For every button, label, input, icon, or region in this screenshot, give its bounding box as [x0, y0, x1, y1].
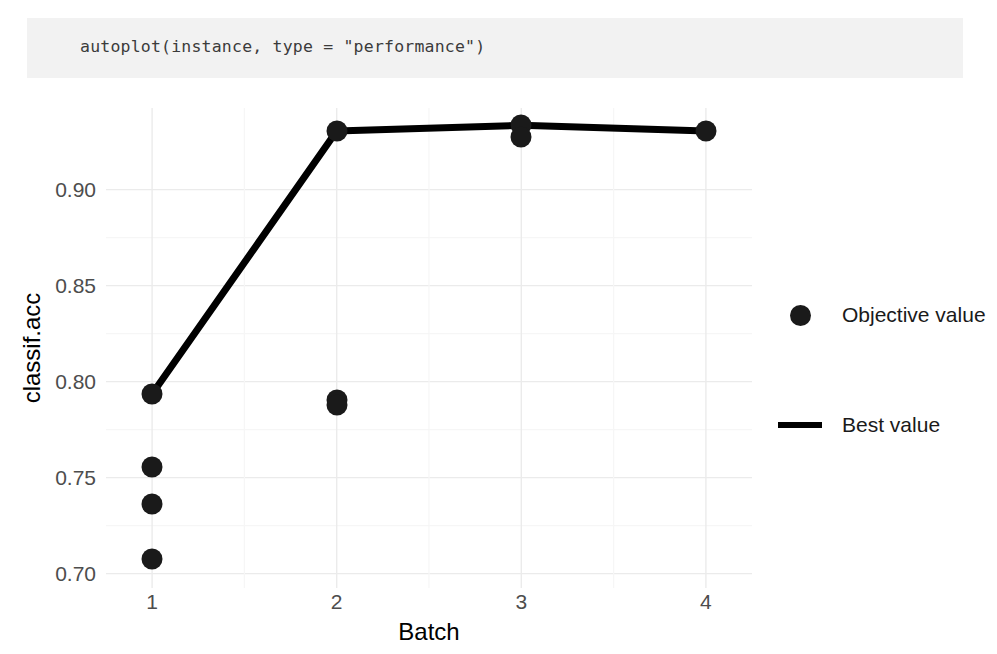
data-point	[695, 121, 716, 142]
x-axis-ticks: 1234	[106, 590, 752, 620]
y-tick-label: 0.80	[55, 370, 96, 394]
plot-panel	[106, 108, 752, 588]
data-point	[142, 384, 163, 405]
x-axis-title: Batch	[106, 618, 752, 646]
legend-label: Best value	[842, 413, 940, 437]
code-cell: autoplot(instance, type = "performance")	[27, 18, 963, 78]
legend-entry: Best value	[772, 408, 940, 442]
legend-dot-icon	[790, 305, 811, 326]
performance-plot: 0.900.850.800.750.70 1234 Batch classif.…	[0, 88, 997, 654]
x-tick-label: 2	[331, 590, 343, 614]
x-tick-label: 1	[146, 590, 158, 614]
data-point	[511, 126, 532, 147]
legend-line-icon	[778, 422, 822, 428]
x-tick-label: 3	[515, 590, 527, 614]
x-tick-label: 4	[700, 590, 712, 614]
legend-label: Objective value	[842, 303, 986, 327]
legend: Objective valueBest value	[772, 108, 992, 588]
y-tick-label: 0.75	[55, 466, 96, 490]
best-value-line	[106, 108, 752, 588]
code-text: autoplot(instance, type = "performance")	[80, 37, 485, 56]
y-tick-label: 0.90	[55, 178, 96, 202]
data-point	[142, 549, 163, 570]
data-point	[142, 457, 163, 478]
legend-key	[772, 305, 828, 326]
y-tick-label: 0.85	[55, 274, 96, 298]
legend-key	[772, 422, 828, 428]
data-point	[326, 121, 347, 142]
data-point	[142, 494, 163, 515]
legend-entry: Objective value	[772, 298, 986, 332]
y-axis-title: classif.acc	[18, 108, 58, 588]
y-tick-label: 0.70	[55, 562, 96, 586]
data-point	[326, 394, 347, 415]
